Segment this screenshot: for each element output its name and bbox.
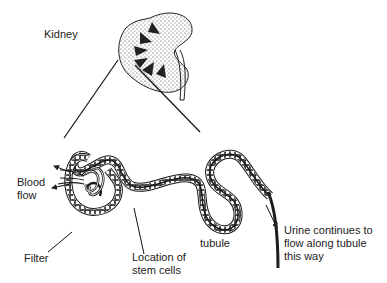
kidney-label: Kidney	[44, 28, 78, 41]
stem-cells-label: Location of stem cells	[132, 251, 186, 277]
blood-flow-label: Blood flow	[17, 176, 45, 202]
kidney-illustration	[119, 13, 192, 100]
filter-pointer	[48, 232, 72, 252]
zoom-line-left	[64, 60, 118, 138]
urine-flow-label: Urine continues to flow along tubule thi…	[284, 224, 373, 263]
tubule-label: tubule	[200, 237, 230, 250]
stem-cells-pointer	[134, 208, 144, 254]
filter-label: Filter	[24, 252, 48, 265]
